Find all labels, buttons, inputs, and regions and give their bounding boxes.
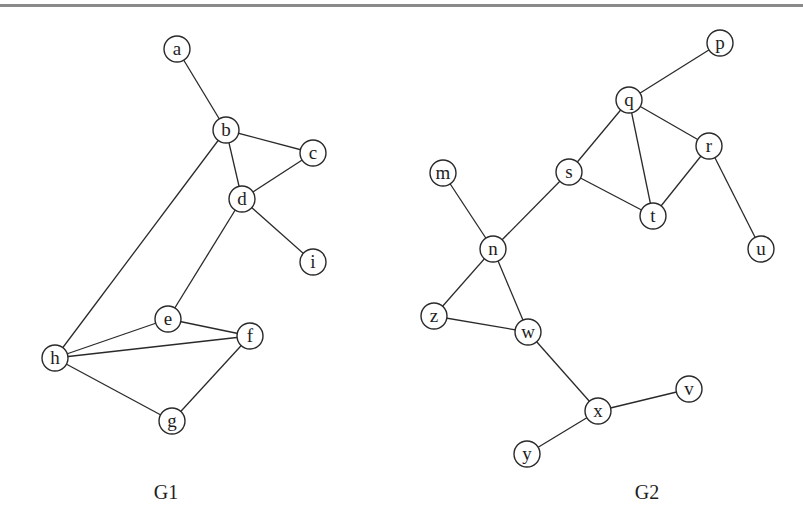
node-b: b xyxy=(213,117,239,143)
nodes-layer: abcdiefhgpqrmstnuzwxvy xyxy=(42,30,774,467)
edge-w-x xyxy=(528,332,598,411)
node-w: w xyxy=(515,319,541,345)
edge-d-i xyxy=(242,199,313,262)
edge-q-s xyxy=(569,100,629,172)
node-label: z xyxy=(430,305,438,326)
node-h: h xyxy=(42,345,68,371)
graph-title-g2: G2 xyxy=(635,481,659,503)
edge-g-f xyxy=(172,336,250,421)
node-g: g xyxy=(159,408,185,434)
node-label: g xyxy=(167,410,177,431)
node-label: c xyxy=(309,142,317,163)
edge-x-v xyxy=(598,389,689,411)
node-label: f xyxy=(247,325,254,346)
node-label: e xyxy=(164,308,172,329)
node-t: t xyxy=(640,203,666,229)
edge-d-e xyxy=(168,199,242,319)
node-r: r xyxy=(696,133,722,159)
node-label: a xyxy=(173,38,182,59)
node-label: u xyxy=(756,238,766,259)
edge-b-h xyxy=(55,130,226,358)
edge-s-t xyxy=(569,172,653,216)
edge-s-n xyxy=(493,172,569,249)
edge-z-w xyxy=(434,316,528,332)
node-label: v xyxy=(684,378,694,399)
node-u: u xyxy=(748,236,774,262)
edge-r-u xyxy=(709,146,761,249)
edge-q-r xyxy=(629,100,709,146)
node-label: m xyxy=(436,162,451,183)
node-s: s xyxy=(556,159,582,185)
node-i: i xyxy=(300,249,326,275)
node-label: n xyxy=(488,238,498,259)
edge-p-q xyxy=(629,43,720,100)
node-f: f xyxy=(237,323,263,349)
edge-a-b xyxy=(177,49,226,130)
node-m: m xyxy=(430,160,456,186)
node-p: p xyxy=(707,30,733,56)
node-label: i xyxy=(310,251,315,272)
edge-q-t xyxy=(629,100,653,216)
node-q: q xyxy=(616,87,642,113)
graph-title-g1: G1 xyxy=(154,481,178,503)
node-label: t xyxy=(650,205,656,226)
node-label: q xyxy=(624,89,634,110)
node-label: d xyxy=(237,188,247,209)
edges-layer xyxy=(55,43,761,454)
edge-h-f xyxy=(55,336,250,358)
node-label: r xyxy=(706,135,713,156)
node-label: s xyxy=(565,161,572,182)
node-v: v xyxy=(676,376,702,402)
node-label: p xyxy=(715,32,725,53)
node-n: n xyxy=(480,236,506,262)
node-label: h xyxy=(50,347,60,368)
titles-layer: G1G2 xyxy=(154,481,659,503)
node-label: b xyxy=(221,119,231,140)
node-a: a xyxy=(164,36,190,62)
node-y: y xyxy=(514,441,540,467)
graph-canvas: abcdiefhgpqrmstnuzwxvy G1G2 xyxy=(0,0,803,522)
node-c: c xyxy=(300,140,326,166)
node-d: d xyxy=(229,186,255,212)
node-x: x xyxy=(585,398,611,424)
node-label: x xyxy=(593,400,603,421)
node-label: y xyxy=(522,443,532,464)
node-e: e xyxy=(155,306,181,332)
node-label: w xyxy=(521,321,535,342)
edge-h-g xyxy=(55,358,172,421)
node-z: z xyxy=(421,303,447,329)
